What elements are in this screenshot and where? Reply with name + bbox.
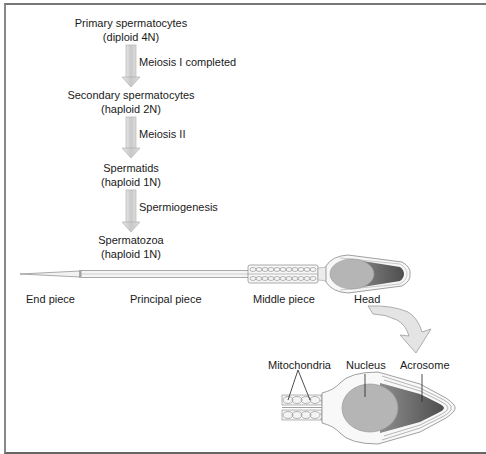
stage-spermatids: Spermatids (haploid 1N) [101, 161, 161, 189]
transition-spermiogenesis: Spermiogenesis [139, 200, 218, 214]
enlarged-head-drawing [282, 370, 455, 444]
spermatozoon-drawing [20, 255, 410, 293]
stage-secondary-spermatocytes: Secondary spermatocytes (haploid 2N) [67, 88, 194, 116]
label-mitochondria: Mitochondria [268, 358, 331, 372]
stage-ploidy: (haploid 1N) [101, 175, 161, 189]
label-head: Head [354, 292, 380, 306]
stage-name: Primary spermatocytes [75, 16, 187, 30]
label-end-piece: End piece [26, 292, 75, 306]
stage-name: Spermatids [101, 161, 161, 175]
down-arrow-1-icon [122, 45, 140, 87]
stage-ploidy: (haploid 2N) [67, 102, 194, 116]
curved-arrow-icon [368, 306, 431, 353]
stage-ploidy: (diploid 4N) [75, 30, 187, 44]
transition-meiosis-2: Meiosis II [139, 127, 185, 141]
label-principal-piece: Principal piece [130, 292, 202, 306]
down-arrow-2-icon [122, 117, 140, 158]
stage-ploidy: (haploid 1N) [98, 247, 163, 261]
down-arrow-3-icon [122, 190, 140, 232]
stage-spermatozoa: Spermatozoa (haploid 1N) [98, 233, 163, 261]
label-acrosome: Acrosome [400, 358, 450, 372]
label-nucleus: Nucleus [346, 358, 386, 372]
label-middle-piece: Middle piece [253, 292, 315, 306]
transition-meiosis-1: Meiosis I completed [139, 55, 236, 69]
stage-name: Secondary spermatocytes [67, 88, 194, 102]
stage-primary-spermatocytes: Primary spermatocytes (diploid 4N) [75, 16, 187, 44]
stage-name: Spermatozoa [98, 233, 163, 247]
